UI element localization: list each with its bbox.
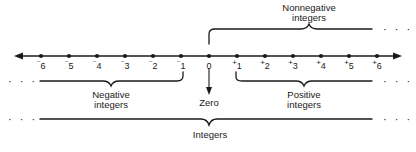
ellipsis-middle-left: · · · [8, 76, 38, 87]
axis-arrow-left [14, 52, 23, 59]
tick-digit: 4 [96, 61, 101, 71]
integers-brace [40, 119, 372, 125]
tick-digit: 3 [293, 61, 298, 71]
ellipsis-bottom-left: · · · [8, 114, 38, 125]
tick-digit: 5 [349, 61, 354, 71]
axis-arrow-right [393, 52, 402, 59]
caption-line-2: integers [92, 100, 130, 110]
tick-digit: 6 [40, 61, 45, 71]
caption-line-1: Integers [193, 129, 227, 140]
negative-integers-label: Negative integers [92, 90, 130, 110]
caption-line-1: Zero [199, 97, 219, 108]
positive-brace [236, 72, 372, 86]
tick-digit: 5 [68, 61, 73, 71]
nonnegative-integers-label: Nonnegative integers [282, 3, 335, 23]
tick-digit: 1 [237, 61, 242, 71]
zero-label: Zero [199, 98, 219, 108]
ellipsis-bottom-right: · · · [383, 114, 413, 125]
tick-label-pos1: +1 [232, 62, 241, 71]
tick-label-pos2: +2 [260, 62, 269, 71]
tick-digit: 3 [124, 61, 129, 71]
tick-digit: 2 [152, 61, 157, 71]
tick-label-neg6: ⁻6 [37, 62, 46, 71]
tick-label-pos4: +4 [316, 62, 325, 71]
tick-label-pos3: +3 [288, 62, 297, 71]
tick-digit: 0 [206, 61, 211, 71]
tick-label-neg5: ⁻5 [65, 62, 74, 71]
integers-label: Integers [193, 130, 227, 140]
tick-digit: 2 [265, 61, 270, 71]
tick-label-neg1: ⁻1 [177, 62, 186, 71]
tick-label-neg4: ⁻4 [93, 62, 102, 71]
tick-label-neg2: ⁻2 [149, 62, 158, 71]
tick-label-pos6: +6 [372, 62, 381, 71]
integer-number-line-diagram: ⁻6 ⁻5 ⁻4 ⁻3 ⁻2 ⁻1 0 +1 +2 +3 +4 +5 +6 No… [0, 0, 416, 152]
caption-line-2: integers [282, 13, 335, 23]
tick-digit: 1 [180, 61, 185, 71]
positive-integers-label: Positive integers [287, 90, 321, 110]
tick-label-zero: 0 [206, 62, 211, 71]
ellipsis-middle-right: · · · [383, 76, 413, 87]
zero-pointer-arrow [206, 68, 212, 95]
negative-brace [40, 72, 183, 86]
nonnegative-brace [209, 24, 372, 44]
tick-label-pos5: +5 [344, 62, 353, 71]
tick-digit: 6 [377, 61, 382, 71]
tick-digit: 4 [321, 61, 326, 71]
tick-label-neg3: ⁻3 [121, 62, 130, 71]
caption-line-2: integers [287, 100, 321, 110]
ellipsis-top-right: · · · [383, 24, 413, 35]
